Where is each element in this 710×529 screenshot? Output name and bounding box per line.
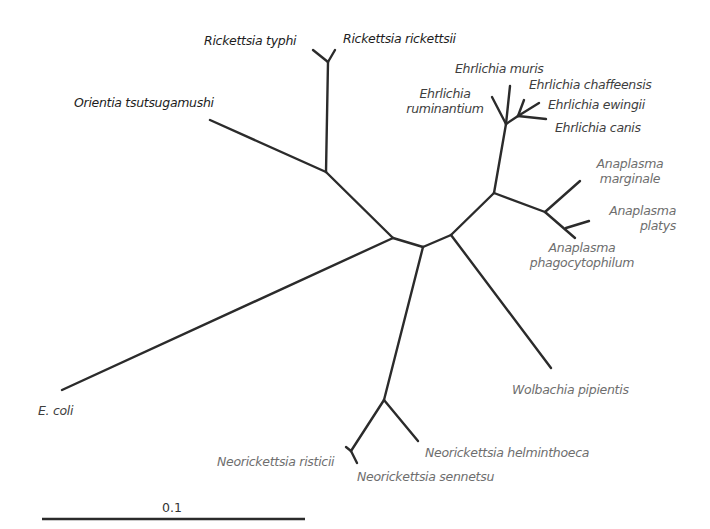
branch-neorickettsia-stem bbox=[384, 247, 423, 400]
label-ehrlichia-chaffeensis: Ehrlichia chaffeensis bbox=[529, 77, 652, 92]
label-rickettsia-rickettsii: Rickettsia rickettsii bbox=[343, 31, 456, 46]
label-neorickettsia-sennetsu: Neorickettsia sennetsu bbox=[357, 469, 494, 484]
label-anaplasma-phago-line2: phagocytophilum bbox=[522, 255, 642, 270]
branch-neorickettsia-sub bbox=[351, 400, 384, 451]
label-ehrlichia-ruminantium-line2: ruminantium bbox=[400, 101, 490, 116]
branch-rickettsia-typhi bbox=[313, 50, 328, 62]
label-ehrlichia-muris: Ehrlichia muris bbox=[455, 61, 544, 76]
label-wolbachia: Wolbachia pipientis bbox=[512, 382, 629, 397]
label-rickettsia-typhi: Rickettsia typhi bbox=[204, 33, 296, 48]
label-anaplasma-marginale-line2: marginale bbox=[580, 171, 680, 186]
label-anaplasma-marginale: Anaplasma marginale bbox=[580, 156, 680, 186]
branch-anaplasmataceae-stem bbox=[451, 193, 494, 235]
label-ehrlichia-ruminantium-line1: Ehrlichia bbox=[400, 86, 490, 101]
label-neorickettsia-risticii: Neorickettsia risticii bbox=[217, 454, 334, 469]
branch-anaplasma-stem bbox=[494, 193, 545, 212]
branch-neorickettsia-helminthoeca bbox=[384, 400, 418, 441]
scale-bar-label: 0.1 bbox=[162, 500, 182, 515]
branch-neorickettsia-sennetsu bbox=[351, 451, 357, 463]
branch-e-coli bbox=[62, 238, 393, 390]
label-anaplasma-platys-line2: platys bbox=[580, 218, 676, 233]
label-neorickettsia-helminthoeca: Neorickettsia helminthoeca bbox=[425, 445, 589, 460]
branch-rickettsia-stem bbox=[326, 62, 328, 172]
label-ehrlichia-canis: Ehrlichia canis bbox=[555, 120, 641, 135]
label-e-coli: E. coli bbox=[38, 403, 73, 418]
label-orientia: Orientia tsutsugamushi bbox=[74, 95, 214, 110]
branch-anaplasma-sub bbox=[545, 212, 575, 238]
phylogenetic-tree: Rickettsia typhi Rickettsia rickettsii O… bbox=[0, 0, 710, 529]
branch-orientia bbox=[210, 120, 326, 172]
branch-ehrlichia-ruminantium bbox=[492, 97, 506, 124]
branch-central-2 bbox=[423, 235, 451, 247]
label-anaplasma-phago-line1: Anaplasma bbox=[522, 240, 642, 255]
branch-anaplasma-marginale bbox=[545, 181, 580, 212]
branch-rickettsiaceae-stem bbox=[326, 172, 393, 238]
branch-central-1 bbox=[393, 238, 423, 247]
label-anaplasma-platys: Anaplasma platys bbox=[580, 203, 676, 233]
branch-ehrlichia-canis bbox=[518, 116, 546, 119]
branch-rickettsia-rickettsii bbox=[328, 50, 335, 62]
label-anaplasma-phagocytophilum: Anaplasma phagocytophilum bbox=[522, 240, 642, 270]
branch-ehrlichia-stem bbox=[494, 124, 506, 193]
label-anaplasma-platys-line1: Anaplasma bbox=[580, 203, 676, 218]
label-ehrlichia-ruminantium: Ehrlichia ruminantium bbox=[400, 86, 490, 116]
label-ehrlichia-ewingii: Ehrlichia ewingii bbox=[548, 97, 645, 112]
branch-ehrlichia-muris bbox=[506, 86, 510, 124]
label-anaplasma-marginale-line1: Anaplasma bbox=[580, 156, 680, 171]
